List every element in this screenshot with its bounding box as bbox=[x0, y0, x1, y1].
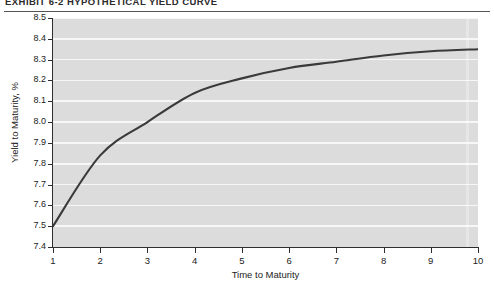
y-axis-tick-label: 8.0 bbox=[20, 117, 46, 126]
x-axis-tick bbox=[384, 248, 385, 253]
x-axis-tick bbox=[53, 248, 54, 253]
yield-curve-line bbox=[53, 18, 478, 247]
x-axis-tick bbox=[147, 248, 148, 253]
y-axis-tick bbox=[48, 101, 52, 102]
x-axis-tick bbox=[289, 248, 290, 253]
plot-area bbox=[53, 18, 478, 247]
x-axis-tick-label: 7 bbox=[324, 255, 348, 266]
x-axis-tick-label: 3 bbox=[135, 255, 159, 266]
y-axis-tick-label: 7.4 bbox=[20, 242, 46, 251]
y-axis-tick-label: 8.5 bbox=[20, 13, 46, 22]
y-axis-tick bbox=[48, 226, 52, 227]
x-axis-tick-label: 9 bbox=[419, 255, 443, 266]
x-axis-tick-label: 5 bbox=[230, 255, 254, 266]
y-axis-tick-label: 7.5 bbox=[20, 221, 46, 230]
x-axis-tick-label: 10 bbox=[466, 255, 490, 266]
y-axis-tick bbox=[48, 205, 52, 206]
x-axis-tick bbox=[336, 248, 337, 253]
x-axis-tick-label: 1 bbox=[41, 255, 65, 266]
y-axis-tick bbox=[48, 18, 52, 19]
x-axis-tick bbox=[100, 248, 101, 253]
x-axis-tick bbox=[478, 248, 479, 253]
y-axis-tick bbox=[48, 185, 52, 186]
y-axis-tick bbox=[48, 164, 52, 165]
y-axis-tick-label: 8.4 bbox=[20, 34, 46, 43]
y-axis-tick-label: 7.8 bbox=[20, 159, 46, 168]
x-axis-tick bbox=[431, 248, 432, 253]
y-axis-tick bbox=[48, 60, 52, 61]
y-axis-tick-label: 7.7 bbox=[20, 180, 46, 189]
y-axis-tick-label: 7.9 bbox=[20, 138, 46, 147]
y-axis-tick-label: 8.2 bbox=[20, 75, 46, 84]
y-axis-tick-label: 7.6 bbox=[20, 200, 46, 209]
y-axis-tick bbox=[48, 143, 52, 144]
x-axis-tick-label: 4 bbox=[183, 255, 207, 266]
x-axis-line bbox=[52, 247, 479, 248]
x-axis-tick bbox=[242, 248, 243, 253]
y-axis-tick bbox=[48, 247, 52, 248]
yield-curve-figure: Yield to Maturity, % 7.47.57.67.77.87.98… bbox=[0, 0, 494, 291]
y-axis-tick bbox=[48, 39, 52, 40]
x-axis-tick-label: 2 bbox=[88, 255, 112, 266]
y-axis-tick-label: 8.3 bbox=[20, 55, 46, 64]
y-axis-tick bbox=[48, 122, 52, 123]
x-axis-tick-label: 6 bbox=[277, 255, 301, 266]
x-axis-tick-label: 8 bbox=[372, 255, 396, 266]
x-axis-tick bbox=[195, 248, 196, 253]
x-axis-title: Time to Maturity bbox=[53, 269, 478, 280]
y-axis-line bbox=[52, 18, 53, 248]
y-axis-tick-label: 8.1 bbox=[20, 96, 46, 105]
y-axis-tick bbox=[48, 80, 52, 81]
